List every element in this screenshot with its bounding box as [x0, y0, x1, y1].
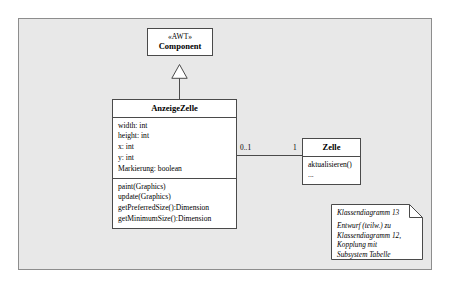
operation-item: ...: [308, 170, 355, 181]
multiplicity-target: 1: [293, 143, 297, 152]
class-name-anzeigezelle: AnzeigeZelle: [151, 103, 198, 113]
note-line: Klassendiagramm 12,: [337, 231, 419, 241]
multiplicity-source: 0..1: [240, 143, 251, 152]
class-box-component[interactable]: «AWT» Component: [147, 28, 213, 56]
attribute-item: y: int: [118, 153, 231, 164]
class-header-component: «AWT» Component: [148, 29, 212, 55]
class-name-component: Component: [159, 41, 202, 51]
operation-item: aktualisieren(): [308, 160, 355, 171]
attribute-item: height: int: [118, 131, 231, 142]
class-header-anzeigezelle: AnzeigeZelle: [113, 100, 236, 117]
class-header-zelle: Zelle: [303, 139, 360, 156]
operation-item: paint(Graphics): [118, 182, 231, 193]
note-title: Klassendiagramm 13: [337, 208, 419, 218]
note-text: Klassendiagramm 13 Entwurf (teilw.) zu K…: [331, 204, 423, 260]
operation-item: getMinimumSize():Dimension: [118, 214, 231, 225]
note-line: Subsystem Tabelle: [337, 250, 419, 260]
attributes-compartment-anzeigezelle: width: int height: int x: int y: int Mar…: [113, 117, 236, 178]
generalization-line: [179, 78, 180, 99]
association-line: [237, 155, 302, 156]
class-box-anzeigezelle[interactable]: AnzeigeZelle width: int height: int x: i…: [112, 99, 237, 229]
class-stereotype-component: «AWT»: [152, 32, 208, 41]
class-box-zelle[interactable]: Zelle aktualisieren() ...: [302, 138, 361, 185]
note-line: Kopplung mit: [337, 240, 419, 250]
operation-item: update(Graphics): [118, 192, 231, 203]
operation-item: getPreferredSize():Dimension: [118, 203, 231, 214]
attribute-item: x: int: [118, 142, 231, 153]
note-line: Entwurf (teilw.) zu: [337, 221, 419, 231]
operations-compartment-zelle: aktualisieren() ...: [303, 156, 360, 185]
diagram-canvas: «AWT» Component AnzeigeZelle width: int …: [0, 0, 452, 288]
generalization-arrow-icon: [171, 64, 188, 79]
operations-compartment-anzeigezelle: paint(Graphics) update(Graphics) getPref…: [113, 178, 236, 228]
class-name-zelle: Zelle: [323, 142, 341, 152]
attribute-item: Markierung: boolean: [118, 164, 231, 175]
attribute-item: width: int: [118, 121, 231, 132]
diagram-note[interactable]: Klassendiagramm 13 Entwurf (teilw.) zu K…: [331, 204, 423, 260]
